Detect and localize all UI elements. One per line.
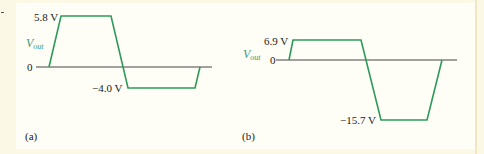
zero-label-a: 0: [27, 61, 33, 73]
low-level-label-a: −4.0 V: [92, 82, 123, 94]
vout-label-b: Vout: [243, 47, 261, 62]
low-level-label-b: −15.7 V: [340, 114, 376, 126]
waveform-figure: 5.8 V Vout 0 −4.0 V (a) 6.9 V Vout 0 −15…: [0, 0, 484, 154]
subfigure-a: 5.8 V Vout 0 −4.0 V (a): [25, 11, 212, 143]
zero-label-b: 0: [270, 54, 276, 66]
high-level-label-b: 6.9 V: [264, 35, 288, 47]
waveform-a: [49, 16, 200, 88]
subfigure-b: 6.9 V Vout 0 −15.7 V (b): [242, 35, 457, 143]
caption-a: (a): [25, 130, 38, 143]
high-level-label-a: 5.8 V: [34, 11, 58, 23]
caption-b: (b): [242, 130, 255, 143]
waveform-b: [289, 40, 442, 120]
vout-label-a: Vout: [26, 36, 44, 51]
